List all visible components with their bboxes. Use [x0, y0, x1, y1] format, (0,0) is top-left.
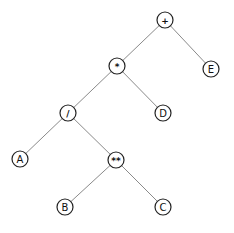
- node-label: +: [161, 16, 169, 26]
- node-D: D: [155, 105, 171, 121]
- node-label: C: [160, 202, 167, 213]
- edge-div-A: [20, 113, 68, 159]
- edge-pow-C: [116, 160, 163, 207]
- node-plus: +: [157, 12, 173, 28]
- tree-nodes: +*E/DA**BC: [12, 12, 219, 215]
- node-label: **: [111, 156, 121, 166]
- expression-tree-diagram: +*E/DA**BC: [0, 0, 234, 233]
- node-times: *: [109, 58, 125, 74]
- node-label: E: [208, 64, 214, 75]
- node-label: *: [115, 62, 120, 72]
- edge-times-D: [117, 66, 163, 113]
- node-C: C: [155, 199, 171, 215]
- edge-div-pow: [68, 113, 116, 160]
- node-B: B: [57, 199, 73, 215]
- node-label: B: [62, 202, 69, 213]
- node-label: A: [17, 154, 24, 165]
- edge-plus-E: [165, 20, 211, 69]
- node-label: D: [159, 108, 167, 119]
- edge-times-div: [68, 66, 117, 113]
- node-div: /: [60, 105, 76, 121]
- node-E: E: [203, 61, 219, 77]
- node-A: A: [12, 151, 28, 167]
- edge-plus-times: [117, 20, 165, 66]
- edge-pow-B: [65, 160, 116, 207]
- tree-edges: [20, 20, 211, 207]
- node-pow: **: [108, 152, 124, 168]
